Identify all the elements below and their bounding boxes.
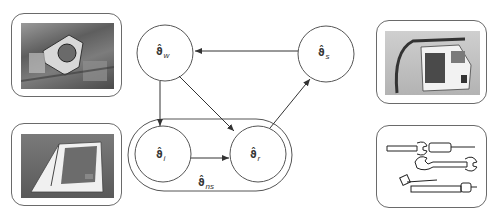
label-node-s: ϑ̂s — [318, 48, 330, 58]
label-symbol: ϑ̂ — [250, 149, 257, 160]
edge-r-to-s — [270, 79, 310, 128]
label-symbol: ϑ̂ — [198, 177, 205, 188]
label-group-ns: ϑ̂ns — [198, 178, 214, 188]
label-symbol: ϑ̂ — [318, 47, 325, 58]
label-symbol: ϑ̂ — [156, 46, 163, 57]
label-node-i: ϑ̂i — [156, 150, 165, 160]
label-subscript: ns — [206, 182, 214, 191]
label-symbol: ϑ̂ — [156, 149, 163, 160]
state-graph — [0, 0, 497, 220]
edge-w-to-r — [179, 76, 234, 131]
label-subscript: r — [258, 154, 261, 163]
label-node-r: ϑ̂r — [250, 150, 260, 160]
label-node-w: ϑ̂w — [156, 47, 169, 57]
label-subscript: s — [326, 52, 330, 61]
label-subscript: w — [164, 51, 170, 60]
